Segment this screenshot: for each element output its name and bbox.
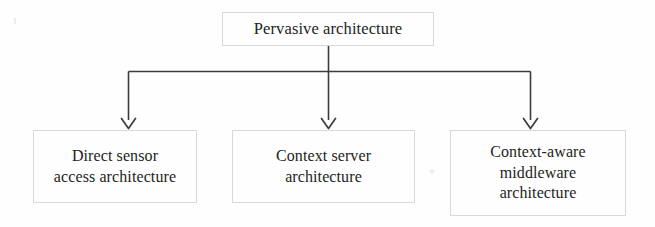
node-label-context-server-architecture: Context server architecture: [270, 146, 377, 188]
arrowhead-left-icon: [122, 119, 136, 129]
scan-artifact: [430, 170, 434, 173]
node-label-pervasive-architecture: Pervasive architecture: [248, 18, 408, 39]
node-label-context-aware-middleware-architecture: Context-aware middleware architecture: [484, 142, 591, 204]
node-context-server-architecture[interactable]: Context server architecture: [232, 130, 415, 203]
arrowhead-right-icon: [524, 119, 538, 129]
arrowhead-center-icon: [322, 119, 336, 129]
node-direct-sensor-access-architecture[interactable]: Direct sensor access architecture: [33, 130, 197, 203]
node-context-aware-middleware-architecture[interactable]: Context-aware middleware architecture: [450, 130, 626, 216]
scan-artifact: [14, 18, 16, 24]
node-label-direct-sensor-access-architecture: Direct sensor access architecture: [48, 146, 182, 188]
pervasive-architecture-diagram: Pervasive architecture Direct sensor acc…: [0, 0, 655, 227]
node-pervasive-architecture[interactable]: Pervasive architecture: [222, 12, 434, 46]
